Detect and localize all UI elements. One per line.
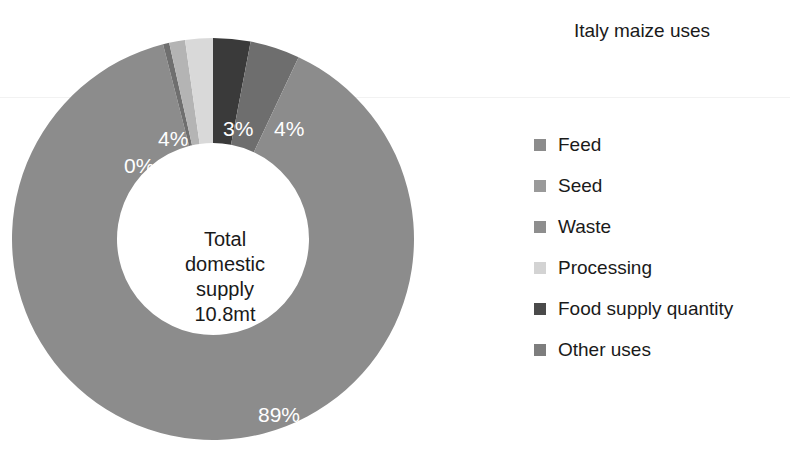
legend-swatch-icon: [534, 139, 546, 151]
donut-svg: 3%4%89%4%0%: [12, 38, 414, 440]
legend-item[interactable]: Waste: [534, 206, 784, 247]
legend-item[interactable]: Feed: [534, 124, 784, 165]
legend-item[interactable]: Food supply quantity: [534, 288, 784, 329]
legend-item[interactable]: Processing: [534, 247, 784, 288]
legend-item-label: Processing: [558, 258, 652, 277]
legend-swatch-icon: [534, 344, 546, 356]
donut-slices-group: [12, 38, 414, 440]
legend-swatch-icon: [534, 221, 546, 233]
donut-slice-value-label: 4%: [274, 117, 304, 140]
chart-legend: FeedSeedWasteProcessingFood supply quant…: [534, 124, 784, 370]
donut-slice-value-label: 4%: [158, 127, 188, 150]
legend-item-label: Other uses: [558, 340, 651, 359]
donut-slice-value-label: 0%: [124, 154, 154, 177]
donut-chart-plot: 3%4%89%4%0% Total domestic supply 10.8mt: [12, 38, 414, 440]
legend-swatch-icon: [534, 303, 546, 315]
legend-item-label: Waste: [558, 217, 611, 236]
donut-slice-value-label: 3%: [223, 117, 253, 140]
legend-item-label: Feed: [558, 135, 601, 154]
legend-item[interactable]: Seed: [534, 165, 784, 206]
legend-swatch-icon: [534, 262, 546, 274]
legend-item[interactable]: Other uses: [534, 329, 784, 370]
legend-swatch-icon: [534, 180, 546, 192]
legend-item-label: Seed: [558, 176, 602, 195]
legend-item-label: Food supply quantity: [558, 299, 733, 318]
donut-chart-figure: 3%4%89%4%0% Total domestic supply 10.8mt…: [0, 0, 790, 460]
chart-title: Italy maize uses: [506, 20, 778, 42]
donut-slice-value-label: 89%: [258, 403, 300, 426]
